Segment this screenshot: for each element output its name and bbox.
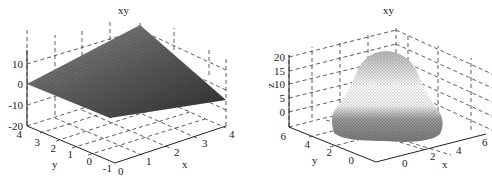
svg-text:0: 0: [280, 106, 286, 118]
svg-text:2: 2: [430, 150, 436, 162]
z-tick-labels: 10 0 -10 -20: [8, 58, 23, 132]
y-axis-label: y: [312, 154, 318, 166]
x-axis: [115, 126, 226, 163]
x-axis-label: x: [182, 158, 188, 170]
svg-text:4: 4: [229, 128, 235, 140]
svg-text:0: 0: [402, 157, 408, 169]
plot-left: xy: [0, 0, 246, 185]
svg-text:0: 0: [118, 165, 124, 177]
svg-text:10: 10: [12, 58, 24, 70]
svg-text:6: 6: [482, 136, 488, 148]
svg-text:-10: -10: [8, 99, 23, 111]
svg-text:3: 3: [35, 136, 41, 148]
svg-text:20: 20: [274, 51, 286, 63]
svg-text:3: 3: [202, 137, 208, 149]
svg-text:2: 2: [174, 146, 180, 158]
svg-text:6: 6: [281, 130, 287, 142]
svg-text:1: 1: [68, 148, 74, 160]
z-axis-label: z: [264, 83, 276, 88]
svg-text:0: 0: [18, 78, 24, 90]
svg-text:2: 2: [51, 142, 57, 154]
x-axis-label: x: [442, 158, 448, 170]
plot-left-axes: 10 0 -10 -20 4 3 2 1 0 -1 y 0 1 2 3 4 x: [0, 0, 246, 185]
plot-right: xy: [246, 0, 492, 185]
svg-text:5: 5: [280, 92, 286, 104]
svg-text:4: 4: [456, 144, 462, 156]
svg-text:1: 1: [146, 155, 152, 167]
y-axis-label: y: [52, 158, 58, 170]
svg-text:15: 15: [274, 65, 286, 77]
svg-text:2: 2: [327, 146, 333, 158]
svg-text:0: 0: [87, 155, 93, 167]
svg-text:4: 4: [305, 138, 311, 150]
y-tick-labels: 4 3 2 1 0 -1: [17, 128, 113, 174]
svg-text:-1: -1: [103, 162, 112, 174]
plot-right-axes: 20 15 10 5 0 z 6 4 2 0 y 0 2 4 6 x: [246, 0, 492, 185]
svg-text:0: 0: [349, 154, 355, 166]
svg-text:4: 4: [17, 128, 23, 140]
